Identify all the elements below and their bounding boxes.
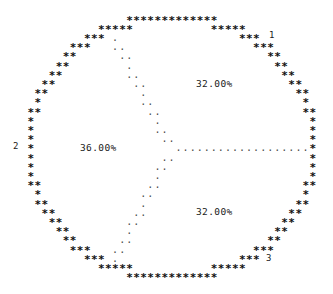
pie-perimeter-glyph: * bbox=[211, 272, 218, 283]
ascii-pie-canvas: ****************************************… bbox=[0, 0, 333, 294]
slice-3-percent-label: 32.00% bbox=[196, 206, 233, 217]
pie-perimeter-glyph: * bbox=[232, 24, 239, 35]
pie-perimeter-glyph: * bbox=[56, 61, 63, 72]
pie-perimeter-glyph: * bbox=[281, 70, 288, 81]
pie-perimeter-glyph: * bbox=[267, 51, 274, 62]
pie-radius-glyph: . bbox=[119, 245, 125, 255]
pie-radius-glyph: . bbox=[239, 143, 245, 153]
pie-perimeter-glyph: * bbox=[161, 15, 168, 26]
pie-perimeter-glyph: * bbox=[197, 15, 204, 26]
pie-perimeter-glyph: * bbox=[105, 24, 112, 35]
pie-perimeter-glyph: * bbox=[35, 88, 42, 99]
pie-radius-glyph: . bbox=[154, 107, 160, 117]
pie-perimeter-glyph: * bbox=[133, 272, 140, 283]
pie-perimeter-glyph: * bbox=[211, 24, 218, 35]
pie-radius-glyph: . bbox=[154, 116, 160, 126]
pie-perimeter-glyph: * bbox=[302, 107, 309, 118]
pie-perimeter-glyph: * bbox=[119, 24, 126, 35]
pie-radius-glyph: . bbox=[119, 51, 125, 61]
pie-radius-glyph: . bbox=[161, 162, 167, 172]
pie-perimeter-glyph: * bbox=[225, 263, 232, 274]
pie-perimeter-glyph: * bbox=[197, 272, 204, 283]
pie-radius-glyph: . bbox=[161, 125, 167, 135]
pie-radius-glyph: . bbox=[112, 42, 118, 52]
pie-perimeter-glyph: * bbox=[105, 263, 112, 274]
pie-radius-glyph: . bbox=[267, 143, 273, 153]
pie-perimeter-glyph: * bbox=[147, 15, 154, 26]
pie-radius-glyph: . bbox=[133, 217, 139, 227]
pie-perimeter-glyph: * bbox=[246, 33, 253, 44]
pie-radius-glyph: . bbox=[133, 79, 139, 89]
pie-radius-glyph: . bbox=[211, 143, 217, 153]
pie-perimeter-glyph: * bbox=[147, 272, 154, 283]
pie-perimeter-glyph: * bbox=[42, 199, 49, 210]
pie-perimeter-glyph: * bbox=[295, 88, 302, 99]
slice-2-percent-label: 36.00% bbox=[80, 142, 117, 153]
pie-perimeter-glyph: * bbox=[77, 245, 84, 256]
pie-perimeter-glyph: * bbox=[77, 42, 84, 53]
pie-radius-glyph: . bbox=[126, 235, 132, 245]
pie-radius-glyph: . bbox=[260, 143, 266, 153]
pie-radius-glyph: . bbox=[288, 143, 294, 153]
pie-perimeter-glyph: * bbox=[91, 33, 98, 44]
pie-perimeter-glyph: * bbox=[63, 51, 70, 62]
pie-perimeter-glyph: * bbox=[232, 263, 239, 274]
pie-radius-glyph: . bbox=[232, 143, 238, 153]
pie-radius-glyph: . bbox=[154, 180, 160, 190]
pie-radius-glyph: . bbox=[225, 143, 231, 153]
pie-radius-glyph: . bbox=[126, 61, 132, 71]
pie-perimeter-glyph: * bbox=[133, 15, 140, 26]
pie-perimeter-glyph: * bbox=[281, 226, 288, 237]
pie-perimeter-glyph: * bbox=[302, 199, 309, 210]
pie-radius-glyph: . bbox=[218, 143, 224, 153]
pie-perimeter-glyph: * bbox=[70, 42, 77, 53]
pie-radius-glyph: . bbox=[140, 97, 146, 107]
pie-perimeter-glyph: * bbox=[295, 208, 302, 219]
pie-perimeter-glyph: * bbox=[168, 15, 175, 26]
slice-3-key-label: 3 bbox=[266, 253, 271, 263]
pie-perimeter-glyph: * bbox=[27, 107, 34, 118]
pie-radius-glyph: . bbox=[126, 70, 132, 80]
pie-radius-glyph: . bbox=[168, 153, 174, 163]
pie-radius-glyph: . bbox=[197, 143, 203, 153]
pie-perimeter-glyph: * bbox=[218, 24, 225, 35]
pie-radius-glyph: . bbox=[112, 33, 118, 43]
pie-radius-glyph: . bbox=[253, 143, 259, 153]
pie-perimeter-glyph: * bbox=[112, 263, 119, 274]
pie-perimeter-glyph: * bbox=[98, 24, 105, 35]
pie-perimeter-glyph: * bbox=[288, 217, 295, 228]
pie-radius-glyph: . bbox=[176, 143, 182, 153]
pie-radius-glyph: . bbox=[140, 88, 146, 98]
pie-perimeter-glyph: * bbox=[225, 24, 232, 35]
pie-perimeter-glyph: * bbox=[161, 272, 168, 283]
pie-perimeter-glyph: * bbox=[204, 272, 211, 283]
pie-perimeter-glyph: * bbox=[274, 235, 281, 246]
pie-perimeter-glyph: * bbox=[309, 180, 316, 191]
pie-perimeter-glyph: * bbox=[42, 79, 49, 90]
pie-radius-glyph: . bbox=[147, 189, 153, 199]
pie-radius-glyph: . bbox=[140, 79, 146, 89]
pie-perimeter-glyph: * bbox=[246, 254, 253, 265]
pie-perimeter-glyph: * bbox=[260, 42, 267, 53]
pie-perimeter-glyph: * bbox=[239, 33, 246, 44]
pie-perimeter-glyph: * bbox=[126, 15, 133, 26]
pie-perimeter-glyph: * bbox=[154, 15, 161, 26]
pie-perimeter-glyph: * bbox=[49, 208, 56, 219]
pie-perimeter-glyph: * bbox=[154, 272, 161, 283]
slice-1-percent-label: 32.00% bbox=[196, 78, 233, 89]
pie-perimeter-glyph: * bbox=[91, 254, 98, 265]
pie-radius-glyph: . bbox=[140, 208, 146, 218]
pie-radius-glyph: . bbox=[190, 143, 196, 153]
pie-radius-glyph: . bbox=[281, 143, 287, 153]
pie-radius-glyph: . bbox=[246, 143, 252, 153]
pie-perimeter-glyph: * bbox=[126, 263, 133, 274]
pie-perimeter-glyph: * bbox=[140, 272, 147, 283]
pie-radius-glyph: . bbox=[154, 125, 160, 135]
pie-perimeter-glyph: * bbox=[98, 254, 105, 265]
pie-radius-glyph: . bbox=[302, 143, 308, 153]
pie-perimeter-glyph: * bbox=[183, 272, 190, 283]
pie-perimeter-glyph: * bbox=[183, 15, 190, 26]
pie-perimeter-glyph: * bbox=[239, 263, 246, 274]
pie-perimeter-glyph: * bbox=[49, 70, 56, 81]
pie-perimeter-glyph: * bbox=[190, 272, 197, 283]
